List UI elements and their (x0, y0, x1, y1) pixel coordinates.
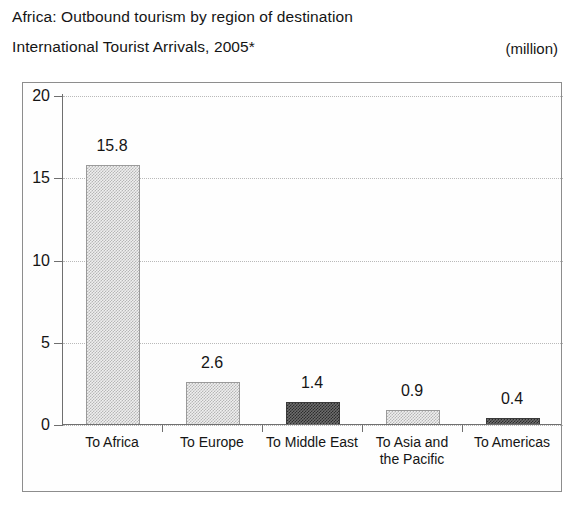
x-tick-1 (162, 424, 163, 432)
data-label-0: 15.8 (62, 137, 162, 155)
y-tick-label-20: 20 (32, 87, 50, 105)
data-label-2: 1.4 (262, 374, 362, 392)
category-label-4: To Americas (462, 434, 562, 451)
bar-1 (186, 382, 241, 425)
bar-3 (386, 410, 441, 425)
chart-title-line-2: International Tourist Arrivals, 2005* (12, 38, 255, 56)
x-tick-3 (362, 424, 363, 432)
data-label-1: 2.6 (162, 354, 262, 372)
chart-screenshot: Africa: Outbound tourism by region of de… (0, 0, 572, 509)
category-label-3-line-0: To Asia and (362, 434, 462, 451)
y-tick-label-10: 10 (32, 252, 50, 270)
category-label-0: To Africa (62, 434, 162, 451)
y-tick-label-0: 0 (41, 416, 50, 434)
x-tick-2 (262, 424, 263, 432)
category-label-4-line-0: To Americas (462, 434, 562, 451)
category-label-2-line-0: To Middle East (262, 434, 362, 451)
gridline-0 (63, 425, 563, 426)
category-label-1: To Europe (162, 434, 262, 451)
y-tick-0 (54, 425, 63, 426)
data-label-4: 0.4 (462, 390, 562, 408)
gridline-20 (63, 96, 563, 97)
category-label-3-line-1: the Pacific (362, 451, 462, 468)
y-tick-label-15: 15 (32, 169, 50, 187)
x-axis-line (62, 424, 561, 425)
x-tick-4 (462, 424, 463, 432)
category-label-2: To Middle East (262, 434, 362, 451)
bar-2 (286, 402, 341, 425)
chart-title-line-1: Africa: Outbound tourism by region of de… (12, 8, 353, 26)
category-label-1-line-0: To Europe (162, 434, 262, 451)
data-label-3: 0.9 (362, 382, 462, 400)
y-tick-label-5: 5 (41, 334, 50, 352)
category-label-0-line-0: To Africa (62, 434, 162, 451)
category-label-3: To Asia andthe Pacific (362, 434, 462, 468)
chart-unit-note: (million) (506, 40, 559, 57)
bar-0 (86, 165, 141, 425)
